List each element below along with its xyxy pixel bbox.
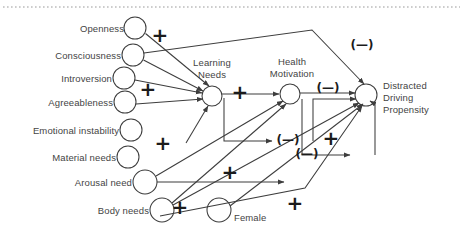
edge-arousal-to-health bbox=[156, 101, 283, 176]
node-consciousness[interactable] bbox=[122, 44, 144, 66]
sign-minus-ddp-feedback: (—) bbox=[296, 148, 319, 160]
edge-body-to-health bbox=[172, 104, 286, 203]
label-body-needs: Body needs bbox=[98, 205, 149, 216]
node-body-needs[interactable] bbox=[150, 198, 174, 222]
edge-lower-route-to-ddp bbox=[160, 106, 362, 216]
sign-plus-female-ddp: + bbox=[287, 193, 304, 213]
edge-consciousness-to-ddp bbox=[144, 30, 364, 84]
node-learning-needs[interactable] bbox=[202, 86, 222, 106]
sign-plus-material-learning: + bbox=[155, 133, 172, 153]
sign-minus-learning-feedback: (—) bbox=[277, 134, 300, 146]
diagram-canvas: Openness Consciousness Introversion Agre… bbox=[0, 0, 463, 232]
node-introversion[interactable] bbox=[113, 67, 135, 89]
label-agreeableness: Agreeableness bbox=[48, 97, 113, 108]
sign-plus-arousal-ddp: + bbox=[222, 162, 239, 182]
label-introversion: Introversion bbox=[61, 73, 112, 84]
label-openness: Openness bbox=[80, 23, 124, 34]
sign-minus-consciousness-ddp: (—) bbox=[351, 39, 374, 51]
edge-learning-feedback-to-health bbox=[224, 98, 272, 141]
label-arousal-need: Arousal need bbox=[75, 177, 132, 188]
diagram-graphics bbox=[0, 0, 463, 232]
sign-plus-lower-ddp: + bbox=[323, 128, 340, 148]
node-female[interactable] bbox=[207, 198, 231, 222]
sign-plus-introversion-learning: + bbox=[140, 79, 157, 99]
sign-plus-openness-learning: + bbox=[152, 25, 169, 45]
sign-minus-health-ddp: (—) bbox=[317, 82, 340, 94]
node-agreeableness[interactable] bbox=[114, 91, 136, 113]
node-openness[interactable] bbox=[124, 17, 146, 39]
label-ddp-line1: Distracted bbox=[383, 80, 427, 91]
node-arousal-need[interactable] bbox=[133, 170, 157, 194]
sign-plus-learning-health: + bbox=[232, 82, 249, 102]
label-learning-needs-line1: Learning bbox=[193, 57, 231, 68]
edge-material-to-learning bbox=[186, 106, 208, 143]
label-learning-needs-line2: Needs bbox=[198, 69, 226, 80]
label-consciousness: Consciousness bbox=[55, 50, 121, 61]
label-health-motivation-line2: Motivation bbox=[270, 68, 314, 79]
label-ddp-line3: Propensity bbox=[383, 104, 429, 115]
label-ddp-line2: Driving bbox=[383, 92, 413, 103]
sign-plus-body-learning: + bbox=[172, 197, 189, 217]
node-material-needs[interactable] bbox=[117, 146, 139, 168]
edge-ddp-feedback-right-arm bbox=[370, 101, 375, 155]
node-emotional-instability[interactable] bbox=[120, 119, 142, 141]
label-emotional-instability: Emotional instability bbox=[33, 125, 119, 136]
label-health-motivation-line1: Health bbox=[278, 56, 306, 67]
label-female: Female bbox=[234, 212, 266, 223]
label-material-needs: Material needs bbox=[52, 152, 116, 163]
